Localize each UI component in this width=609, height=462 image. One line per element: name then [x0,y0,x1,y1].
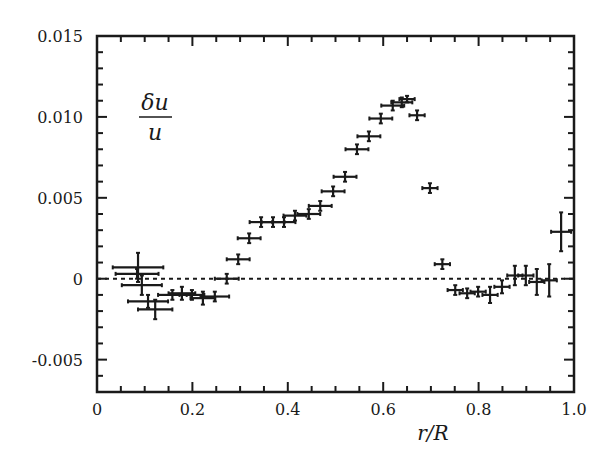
plot-area: 00.20.40.60.81.0 -0.00500.0050.0100.015 … [0,0,609,462]
data-point [357,131,380,141]
data-point [128,295,168,308]
data-point [346,144,369,154]
y-axis-ticks: -0.00500.0050.0100.015 [32,27,574,392]
y-tick-label: -0.005 [32,351,83,370]
data-point [297,209,320,219]
x-tick-label: 0.2 [180,400,205,419]
y-axis-label: δu u [139,90,172,145]
x-tick-label: 0.4 [275,400,300,419]
data-point [238,233,261,243]
data-point [227,254,250,264]
data-point [494,280,509,293]
data-point [116,269,159,279]
x-tick-label: 0 [92,400,102,419]
data-point [435,259,450,269]
chart: 00.20.40.60.81.0 -0.00500.0050.0100.015 … [0,0,609,462]
x-tick-label: 0.8 [466,400,491,419]
data-point [422,183,437,193]
data-point [542,264,557,296]
data-point [334,172,357,182]
y-tick-label: 0.015 [37,27,83,46]
data-point [309,201,332,211]
data-point [482,287,497,303]
y-axis-label-numerator: δu [141,90,168,115]
data-point [409,110,424,120]
y-tick-label: 0.010 [37,108,83,127]
data-point [369,114,392,124]
data-point [322,186,345,196]
data-point [215,274,239,284]
y-axis-label-denominator: u [148,120,162,145]
data-points [113,96,571,319]
data-point [284,211,307,221]
y-tick-label: 0.005 [37,189,83,208]
y-tick-label: 0 [73,270,83,289]
x-tick-label: 1.0 [561,400,586,419]
x-axis-label: r/R [417,421,448,445]
x-tick-label: 0.6 [370,400,395,419]
data-point [273,217,296,227]
